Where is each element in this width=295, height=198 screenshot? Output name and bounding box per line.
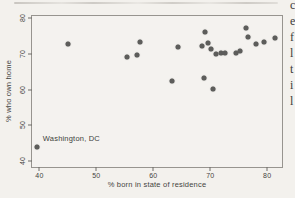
y-tick-label: 70 — [19, 50, 26, 58]
x-tick-mark — [267, 167, 268, 171]
data-point — [34, 144, 39, 149]
y-tick-mark — [28, 53, 32, 54]
data-point — [138, 40, 143, 45]
y-tick-mark — [28, 160, 32, 161]
clipped-letter-fragment: i — [290, 78, 295, 93]
data-point — [253, 41, 258, 46]
x-tick-label: 80 — [263, 172, 271, 179]
y-tick-label: 50 — [19, 121, 26, 129]
x-tick-label: 50 — [92, 172, 100, 179]
data-point — [243, 25, 248, 30]
data-point — [209, 47, 214, 52]
data-point — [199, 43, 204, 48]
y-tick-mark — [28, 89, 32, 90]
data-point — [211, 86, 216, 91]
data-point — [245, 35, 250, 40]
clipped-letter-fragment: t — [290, 62, 295, 77]
y-tick-label: 60 — [19, 85, 26, 93]
x-tick-label: 70 — [206, 172, 214, 179]
data-point — [201, 76, 206, 81]
data-point — [205, 40, 210, 45]
y-tick-mark — [28, 18, 32, 19]
y-tick-mark — [28, 125, 32, 126]
x-tick-mark — [210, 167, 211, 171]
x-axis-title: % born in state of residence — [31, 180, 283, 189]
data-point — [202, 29, 207, 34]
clipped-letter-fragment: l — [290, 94, 295, 109]
x-tick-mark — [153, 167, 154, 171]
x-tick-mark — [39, 167, 40, 171]
data-point — [176, 45, 181, 50]
y-axis-title: % who own home — [4, 15, 13, 168]
data-point — [124, 55, 129, 60]
data-point — [169, 78, 174, 83]
clipped-letter-fragment: e — [290, 14, 295, 29]
x-tick-label: 40 — [35, 172, 43, 179]
data-point — [262, 39, 267, 44]
x-tick-label: 60 — [149, 172, 157, 179]
clipped-letter-fragment: l — [290, 46, 295, 61]
data-point — [223, 50, 228, 55]
y-tick-label: 40 — [19, 157, 26, 165]
scanned-scatter-figure: 40506070804050607080Washington, DC % bor… — [0, 0, 295, 198]
data-point — [135, 52, 140, 57]
clipped-letter-fragment: c — [290, 0, 295, 13]
data-point — [65, 42, 70, 47]
data-point — [272, 36, 277, 41]
annotation-washington-dc: Washington, DC — [43, 134, 100, 143]
clipped-letter-fragment: f — [290, 30, 295, 45]
plot-area: 40506070804050607080Washington, DC — [31, 15, 283, 168]
y-tick-label: 80 — [19, 14, 26, 22]
data-point — [238, 48, 243, 53]
scan-artifact-top — [14, 2, 278, 4]
x-tick-mark — [96, 167, 97, 171]
